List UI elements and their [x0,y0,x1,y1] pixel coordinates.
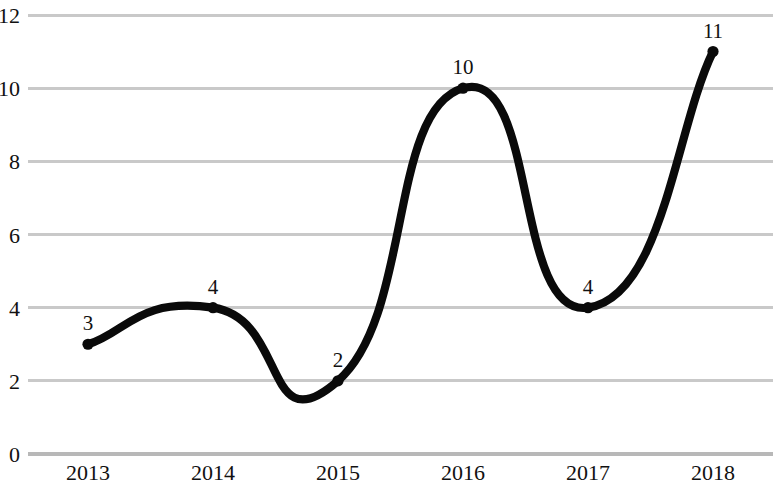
x-axis-label-2015: 2015 [316,460,360,485]
x-axis-label-2016: 2016 [441,460,485,485]
y-axis-label-4: 4 [9,296,20,321]
y-axis-label-6: 6 [9,223,20,248]
chart-canvas: 024681012 201320142015201620172018 34210… [0,0,773,485]
x-axis-label-2014: 2014 [191,460,235,485]
y-axis-label-8: 8 [9,149,20,174]
data-point-2015 [332,375,343,386]
data-point-2014 [207,302,218,313]
y-axis-label-10: 10 [0,76,20,101]
data-point-2018 [707,46,718,57]
y-axis-label-12: 12 [0,3,20,28]
line-series-path [88,52,713,400]
data-point-label-2017: 4 [583,275,594,299]
x-axis-label-2017: 2017 [566,460,610,485]
data-point-2017 [582,302,593,313]
line-chart: 024681012 201320142015201620172018 34210… [0,0,773,485]
y-axis-label-0: 0 [9,442,20,467]
data-point-label-2016: 10 [453,55,474,79]
data-point-label-2018: 11 [703,19,723,43]
x-axis-label-2013: 2013 [66,460,110,485]
y-axis-tick-labels: 024681012 [0,3,20,467]
data-point-label-2013: 3 [83,311,94,335]
x-axis-label-2018: 2018 [691,460,735,485]
data-point-label-2014: 4 [208,275,219,299]
data-point-label-2015: 2 [333,348,344,372]
data-point-2013 [82,339,93,350]
y-axis-label-2: 2 [9,369,20,394]
x-axis-tick-labels: 201320142015201620172018 [66,460,735,485]
data-point-2016 [457,83,468,94]
